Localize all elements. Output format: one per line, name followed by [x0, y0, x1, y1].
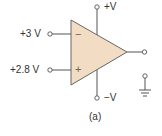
inverting-input-terminal: [48, 32, 52, 36]
caption: (a): [89, 112, 101, 122]
inverting-sign: −: [75, 29, 81, 40]
non-inverting-input-label: +2.8 V: [10, 65, 39, 75]
inverting-input-label: +3 V: [20, 29, 41, 39]
output-terminal: [142, 50, 146, 54]
positive-supply-terminal: [95, 5, 99, 9]
ground-terminal: [143, 74, 147, 78]
non-inverting-sign: +: [75, 64, 81, 75]
negative-supply-label: −V: [104, 93, 117, 103]
positive-supply-label: +V: [104, 2, 117, 12]
non-inverting-input-terminal: [48, 68, 52, 72]
negative-supply-terminal: [95, 96, 99, 100]
